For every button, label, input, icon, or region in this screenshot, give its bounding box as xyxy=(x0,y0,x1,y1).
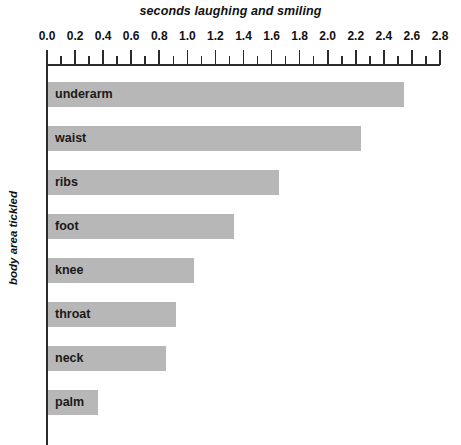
bar-category-label: ribs xyxy=(55,170,78,195)
bar-category-label: waist xyxy=(55,126,86,151)
bar-category-label: foot xyxy=(55,214,79,239)
bar-chart: seconds laughing and smiling body area t… xyxy=(0,0,461,445)
bar-row[interactable]: palm xyxy=(48,390,98,415)
bar-row[interactable]: underarm xyxy=(48,82,404,107)
bar-category-label: neck xyxy=(55,346,84,371)
bars-layer: underarmwaistribsfootkneethroatneckpalm xyxy=(0,0,461,445)
bar-category-label: underarm xyxy=(55,82,113,107)
bar-row[interactable]: knee xyxy=(48,258,194,283)
bar-category-label: knee xyxy=(55,258,84,283)
bar-category-label: palm xyxy=(55,390,84,415)
bar-category-label: throat xyxy=(55,302,90,327)
bar-row[interactable]: throat xyxy=(48,302,176,327)
bar-row[interactable]: foot xyxy=(48,214,234,239)
bar-row[interactable]: neck xyxy=(48,346,166,371)
bar[interactable] xyxy=(48,170,279,195)
bar[interactable] xyxy=(48,126,361,151)
bar-row[interactable]: ribs xyxy=(48,170,279,195)
bar-row[interactable]: waist xyxy=(48,126,361,151)
